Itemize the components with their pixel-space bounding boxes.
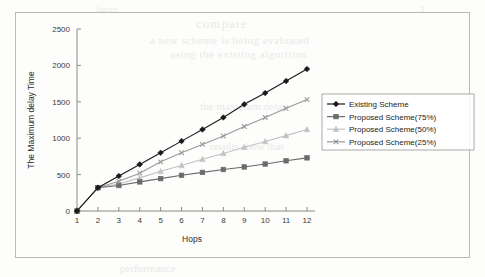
y-tick-label: 0	[66, 207, 71, 216]
series-triangle	[74, 127, 309, 214]
legend-label: Proposed Scheme(25%)	[349, 138, 436, 147]
legend-label: Existing Scheme	[349, 100, 409, 109]
data-point	[221, 134, 226, 139]
chart-legend: Existing SchemeProposed Scheme(75%)Propo…	[322, 94, 474, 150]
data-point	[200, 142, 205, 147]
scanned-page: figure 2 compare a new scheme is being e…	[0, 0, 485, 277]
x-tick-label: 11	[282, 216, 291, 225]
data-point	[304, 127, 309, 132]
data-point	[158, 176, 163, 181]
data-point	[158, 160, 163, 165]
data-point	[200, 170, 205, 175]
x-axis-tick-labels: 123456789101112	[75, 216, 312, 225]
data-point	[283, 78, 289, 84]
y-tick-label: 500	[57, 171, 71, 180]
data-point	[200, 127, 206, 133]
legend-label: Proposed Scheme(50%)	[349, 125, 436, 134]
x-axis-title: Hops	[182, 234, 202, 244]
x-tick-label: 1	[75, 216, 80, 225]
x-tick-label: 4	[138, 216, 143, 225]
y-tick-label: 1500	[52, 98, 70, 107]
data-point	[221, 115, 227, 121]
legend-label: Proposed Scheme(75%)	[349, 113, 436, 122]
data-point	[242, 124, 247, 129]
data-point	[284, 106, 289, 111]
data-point	[179, 150, 184, 155]
x-tick-label: 9	[242, 216, 247, 225]
x-tick-label: 12	[303, 216, 312, 225]
chart-svg: 05001000150020002500 123456789101112 Exi…	[0, 0, 485, 277]
series-cross	[75, 97, 310, 213]
data-point	[241, 102, 247, 108]
x-tick-label: 10	[261, 216, 270, 225]
x-tick-label: 5	[158, 216, 163, 225]
data-point	[263, 162, 268, 167]
data-point	[305, 156, 310, 161]
data-point	[221, 167, 226, 172]
data-point	[158, 150, 164, 156]
data-point	[242, 165, 247, 170]
y-tick-label: 1000	[52, 134, 70, 143]
x-tick-label: 3	[117, 216, 122, 225]
data-point	[304, 66, 310, 72]
data-point	[117, 183, 122, 188]
series-layer	[74, 66, 310, 214]
data-point	[137, 162, 143, 168]
x-tick-label: 7	[200, 216, 205, 225]
x-axis-ticks	[77, 207, 307, 211]
series-diamond	[74, 66, 310, 214]
x-tick-label: 6	[179, 216, 184, 225]
x-tick-label: 8	[221, 216, 226, 225]
data-point	[179, 138, 185, 144]
y-axis-title: The Maximum delay Time	[26, 71, 36, 169]
y-tick-label: 2500	[52, 25, 70, 34]
line-chart: 05001000150020002500 123456789101112 Exi…	[0, 0, 485, 277]
data-point	[179, 173, 184, 178]
data-point	[116, 173, 122, 179]
x-tick-label: 2	[96, 216, 101, 225]
data-point	[262, 90, 268, 96]
y-axis-tick-labels: 05001000150020002500	[52, 25, 70, 216]
y-tick-label: 2000	[52, 61, 70, 70]
data-point	[305, 97, 310, 102]
data-point	[137, 180, 142, 185]
legend-marker	[334, 114, 339, 119]
data-point	[284, 158, 289, 163]
data-point	[263, 115, 268, 120]
y-axis-ticks	[77, 29, 81, 211]
